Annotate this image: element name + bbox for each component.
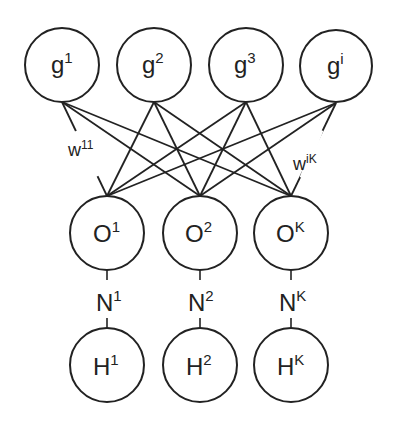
node-gi: gi [300,30,372,102]
label-n2: N2 [188,287,214,316]
node-o2: O2 [163,196,237,270]
edges-g-to-o [62,102,336,196]
node-g1: g1 [25,28,99,102]
node-g3: g3 [209,28,283,102]
label-n1: N1 [96,287,122,316]
layer-o: O1 O2 OK [70,196,328,270]
label-nk: NK [279,287,306,316]
node-o1: O1 [70,196,144,270]
node-hk: HK [254,328,328,402]
network-diagram: w11 wiK g1 g2 g3 gi O1 O2 [0,0,398,424]
node-h2: H2 [163,328,237,402]
node-ok: OK [254,196,328,270]
edge-g3-o1 [107,102,246,196]
layer-g: g1 g2 g3 gi [25,28,372,102]
layer-h: H1 H2 HK [70,328,328,402]
node-h1: H1 [70,328,144,402]
layer-n: N1 N2 NK [96,287,306,316]
node-g2: g2 [117,28,191,102]
edge-g2-o1 [107,102,154,196]
weight-label-wik: wiK [292,152,317,174]
